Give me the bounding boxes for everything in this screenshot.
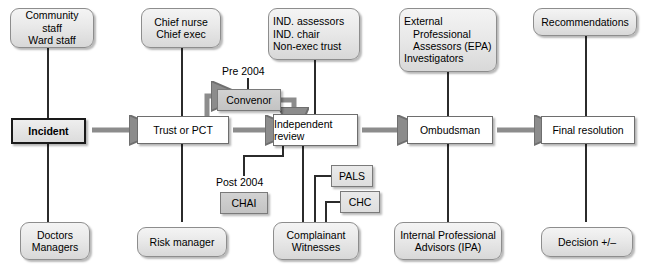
actor-external-line2: Professional — [404, 28, 492, 40]
actor-chief-line1: Chief nurse — [154, 16, 208, 28]
tag-chai[interactable]: CHAI — [220, 192, 268, 214]
node-independent-review[interactable]: Independent review — [273, 114, 358, 146]
actor-risk-manager-label: Risk manager — [150, 236, 215, 248]
tag-chai-label: CHAI — [231, 197, 256, 209]
node-independent-review-line2: review — [274, 130, 332, 142]
actor-risk-manager[interactable]: Risk manager — [137, 227, 227, 257]
actor-independent-assessors[interactable]: IND. assessors IND. chair Non-exec trust — [268, 8, 360, 60]
actor-ipa-line2: Advisors (IPA) — [400, 241, 496, 253]
actor-recommendations-label: Recommendations — [537, 15, 633, 29]
actor-chief-nurse-exec[interactable]: Chief nurse Chief exec — [141, 8, 221, 48]
actor-complainant-witnesses[interactable]: Complainant Witnesses — [273, 222, 359, 260]
actor-doctors-line2: Managers — [32, 241, 79, 253]
wire-review-to-chai — [244, 144, 283, 176]
arrow-convenor-to-review — [281, 100, 294, 110]
tag-chc[interactable]: CHC — [340, 191, 380, 213]
actor-internal-professional-advisors[interactable]: Internal Professional Advisors (IPA) — [394, 222, 502, 260]
actor-doctors-managers[interactable]: Doctors Managers — [20, 222, 90, 260]
tag-convenor-label: Convenor — [226, 94, 272, 106]
actor-recommendations[interactable]: Recommendations — [533, 8, 637, 36]
tag-chc-label: CHC — [349, 196, 372, 208]
actor-community-staff-line1: Community staff — [15, 9, 89, 34]
arrow-trust-to-convenor — [207, 96, 214, 118]
actor-ind-line2: IND. chair — [273, 28, 344, 40]
node-ombudsman-label: Ombudsman — [420, 124, 480, 136]
node-trust-or-pct[interactable]: Trust or PCT — [137, 116, 229, 144]
caption-post-2004: Post 2004 — [216, 176, 263, 188]
actor-doctors-line1: Doctors — [32, 229, 79, 241]
tag-pals-label: PALS — [339, 170, 365, 182]
actor-community-staff-line2: Ward staff — [15, 34, 89, 46]
tag-pals[interactable]: PALS — [331, 165, 373, 187]
actor-ind-line1: IND. assessors — [273, 15, 344, 27]
node-final-resolution[interactable]: Final resolution — [541, 116, 635, 144]
wire-complainant-to-pals — [315, 176, 331, 222]
actor-complainant-line2: Witnesses — [287, 241, 346, 253]
node-final-resolution-label: Final resolution — [552, 124, 623, 136]
actor-complainant-line1: Complainant — [287, 229, 346, 241]
node-independent-review-line1: Independent — [274, 118, 332, 130]
node-trust-or-pct-label: Trust or PCT — [153, 124, 213, 136]
node-ombudsman[interactable]: Ombudsman — [407, 116, 493, 144]
actor-decision[interactable]: Decision +/– — [541, 227, 633, 257]
actor-external-assessors[interactable]: External Professional Assessors (EPA) In… — [399, 8, 497, 72]
node-incident-label: Incident — [28, 125, 68, 137]
flowchart-canvas: Community staff Ward staff Chief nurse C… — [0, 0, 646, 267]
actor-chief-line2: Chief exec — [154, 28, 208, 40]
caption-pre-2004: Pre 2004 — [222, 65, 265, 77]
actor-external-line1: External — [404, 15, 492, 27]
actor-ind-line3: Non-exec trust — [273, 40, 344, 52]
actor-community-staff[interactable]: Community staff Ward staff — [10, 8, 94, 48]
tag-convenor[interactable]: Convenor — [217, 89, 281, 111]
actor-ipa-line1: Internal Professional — [400, 229, 496, 241]
actor-decision-label: Decision +/– — [558, 236, 616, 248]
actor-external-line4: Investigators — [404, 52, 492, 64]
actor-external-line3: Assessors (EPA) — [404, 40, 492, 52]
wire-complainant-to-chc — [326, 202, 340, 222]
node-incident[interactable]: Incident — [11, 118, 86, 144]
